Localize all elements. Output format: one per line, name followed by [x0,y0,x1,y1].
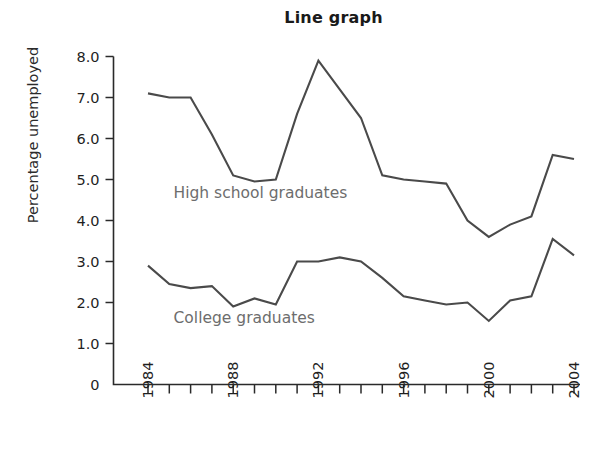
y-tick-label: 5.0 [76,172,99,188]
y-tick-label: 0 [90,377,99,393]
y-tick-label: 7.0 [76,90,99,106]
series-annotations: High school graduatesCollege graduates [174,184,348,327]
axis-lines [114,57,581,385]
x-tick-label: 1984 [140,362,156,399]
y-tick-label: 3.0 [76,254,99,270]
y-tick-label: 2.0 [76,295,99,311]
x-tick-label: 1996 [396,362,412,399]
series-label-0: High school graduates [174,184,348,202]
x-axis-ticks: 198419881992199620002004 [140,362,582,399]
y-axis-ticks: 01.02.03.04.05.06.07.08.0 [76,49,113,393]
y-tick-label: 1.0 [76,336,99,352]
y-tick-label: 6.0 [76,131,99,147]
line-chart-figure: Line graph Percentage unemployed 01.02.0… [0,0,605,453]
x-tick-label: 1992 [310,362,326,399]
series-line-0 [148,61,574,237]
plot-area: 01.02.03.04.05.06.07.08.0 19841988199219… [0,0,605,453]
y-tick-label: 8.0 [76,49,99,65]
x-tick-label: 1988 [225,362,241,399]
x-tick-label: 2004 [566,362,582,399]
series-label-1: College graduates [174,309,315,327]
x-tick-label: 2000 [481,362,497,399]
y-tick-label: 4.0 [76,213,99,229]
